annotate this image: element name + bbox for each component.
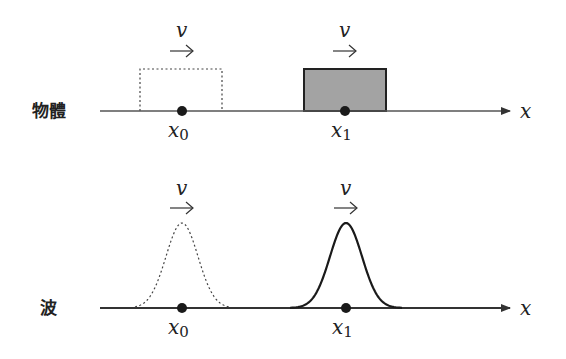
diagram-canvas: 物體 x x0 x1 v v 波 x <box>0 0 566 359</box>
object-panel: 物體 x x0 x1 v v <box>32 18 531 144</box>
object-axis-label: x <box>520 99 531 123</box>
wave-label: 波 <box>40 298 58 318</box>
object-x0-point <box>177 106 187 116</box>
wave-initial-pulse <box>135 223 229 307</box>
wave-moved-pulse <box>290 223 402 308</box>
object-moved-box <box>304 69 386 111</box>
object-x1-point <box>340 106 350 116</box>
object-x1-label: x1 <box>331 118 352 144</box>
object-initial-velocity-label: v <box>176 18 188 42</box>
wave-axis-label: x <box>520 296 531 320</box>
wave-moved-velocity-label: v <box>340 176 352 200</box>
object-moved-velocity-label: v <box>339 18 351 42</box>
object-initial-outline <box>140 69 222 111</box>
wave-initial-velocity-label: v <box>176 176 188 200</box>
wave-x1-point <box>341 303 351 313</box>
wave-x1-label: x1 <box>332 315 353 341</box>
object-label: 物體 <box>32 101 66 121</box>
wave-moved-velocity-arrow-icon <box>334 202 357 214</box>
wave-x0-label: x0 <box>168 315 189 341</box>
wave-panel: 波 x x0 x1 v v <box>40 176 531 341</box>
object-x0-label: x0 <box>168 118 189 144</box>
object-initial-velocity-arrow-icon <box>170 45 193 57</box>
wave-initial-velocity-arrow-icon <box>170 202 193 214</box>
object-moved-velocity-arrow-icon <box>333 45 356 57</box>
wave-x0-point <box>177 303 187 313</box>
